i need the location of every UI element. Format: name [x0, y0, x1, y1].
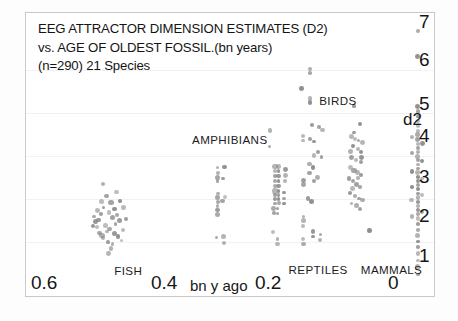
scatter-point	[358, 207, 362, 211]
scatter-point	[277, 193, 280, 196]
scatter-point	[91, 224, 95, 228]
scatter-point	[282, 197, 286, 201]
scatter-point	[367, 228, 371, 232]
group-label-birds: BIRDS	[319, 94, 356, 107]
scatter-point	[299, 86, 303, 90]
scatter-point	[220, 199, 225, 204]
scatter-point	[312, 179, 316, 183]
scatter-point	[316, 150, 320, 154]
group-label-fish: FISH	[114, 264, 142, 277]
scatter-point	[276, 174, 280, 178]
scatter-point	[311, 235, 315, 239]
scatter-point	[410, 185, 413, 188]
scatter-point	[108, 200, 113, 205]
scatter-point	[410, 169, 415, 174]
scatter-point	[301, 182, 305, 186]
chart-title-line-2: vs. AGE OF OLDEST FOSSIL.(bn years)	[38, 39, 368, 58]
scatter-point	[415, 233, 420, 238]
scatter-point	[282, 202, 286, 206]
scatter-point	[359, 155, 364, 160]
scatter-point	[268, 145, 272, 149]
scatter-point	[268, 128, 272, 132]
scatter-point	[420, 159, 424, 163]
scatter-point	[410, 135, 414, 139]
scatter-point	[301, 237, 305, 241]
y-tick-7: 7	[419, 11, 443, 33]
scatter-point	[348, 149, 353, 154]
scatter-point	[276, 164, 281, 169]
scatter-point	[107, 210, 111, 214]
scatter-point	[115, 213, 119, 217]
scatter-point	[311, 165, 316, 170]
scatter-point	[216, 166, 219, 169]
scatter-point	[116, 234, 120, 238]
scatter-point	[359, 173, 363, 177]
group-label-amphibians: AMPHIBIANS	[192, 133, 268, 146]
scatter-point	[277, 179, 280, 182]
scatter-point	[121, 228, 125, 232]
scatter-point	[124, 217, 128, 221]
scatter-point	[420, 193, 424, 197]
scatter-point	[95, 225, 99, 229]
scatter-point	[359, 160, 363, 164]
scatter-point	[221, 234, 226, 239]
scatter-point	[315, 175, 320, 180]
scatter-point	[114, 222, 117, 225]
scatter-point	[320, 128, 325, 133]
scatter-point	[106, 240, 110, 244]
x-tick-0-4: 0.4	[151, 272, 177, 294]
scatter-point	[99, 212, 103, 216]
scatter-point	[358, 122, 362, 126]
scatter-point	[348, 191, 352, 195]
scatter-point	[216, 179, 219, 182]
scatter-point	[282, 191, 285, 194]
scatter-point	[221, 177, 224, 180]
scatter-point	[311, 229, 316, 234]
scatter-point	[416, 228, 421, 233]
scatter-point	[320, 155, 324, 159]
y-tick-4: 4	[419, 125, 443, 147]
scatter-point	[117, 218, 122, 223]
scatter-point	[276, 184, 280, 188]
scatter-point	[104, 194, 109, 199]
x-axis-title: bn y ago	[190, 277, 248, 294]
y-tick-3: 3	[419, 166, 443, 188]
scatter-point	[308, 100, 312, 104]
chart-title-block: EEG ATTRACTOR DIMENSION ESTIMATES (D2) v…	[38, 20, 368, 76]
scatter-point	[283, 173, 288, 178]
scatter-point	[277, 189, 280, 192]
scatter-point	[114, 190, 118, 194]
scatter-point	[283, 167, 288, 172]
scatter-point	[118, 199, 121, 202]
chart-title-line-3: (n=290) 21 Species	[38, 57, 368, 76]
scatter-point	[283, 179, 287, 183]
scatter-point	[111, 242, 114, 245]
scatter-point	[215, 236, 218, 239]
scatter-point	[312, 153, 316, 157]
scatter-point	[359, 150, 363, 154]
scatter-point	[301, 224, 305, 228]
eeg-d2-scatter-figure: EEG ATTRACTOR DIMENSION ESTIMATES (D2) v…	[0, 0, 458, 321]
scatter-point	[101, 182, 105, 186]
scatter-point	[271, 230, 275, 234]
x-tick-0-2: 0.2	[255, 272, 281, 294]
scatter-point	[275, 242, 279, 246]
scatter-point	[222, 165, 227, 170]
scatter-point	[354, 158, 358, 162]
scatter-point	[301, 218, 306, 223]
scatter-point	[349, 155, 354, 160]
scatter-point	[106, 251, 111, 256]
scatter-point	[120, 239, 123, 242]
scatter-point	[310, 123, 314, 127]
scatter-point	[350, 186, 355, 191]
scatter-point	[99, 199, 104, 204]
scatter-point	[110, 215, 115, 220]
scatter-point	[276, 212, 280, 216]
scatter-point	[358, 185, 361, 188]
scatter-point	[352, 131, 355, 134]
scatter-point	[112, 207, 116, 211]
scatter-point	[301, 134, 305, 138]
y-tick-5: 5	[419, 93, 443, 115]
scatter-point	[276, 237, 280, 241]
scatter-point	[410, 214, 415, 219]
